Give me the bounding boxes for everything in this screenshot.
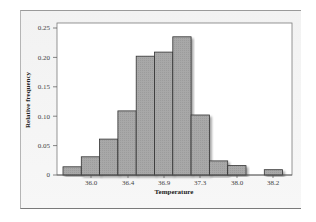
x-tick-label: 37.3 (194, 179, 207, 187)
x-axis: 36.036.436.937.338.038.2 (85, 175, 280, 187)
y-tick-label: 0 (47, 171, 51, 179)
y-tick-label: 0.10 (38, 113, 51, 121)
histogram-chart: 00.050.100.150.200.25 36.036.436.937.338… (0, 0, 316, 222)
y-axis-title: Relative frequency (24, 71, 32, 128)
histogram-bar (209, 161, 227, 175)
x-axis-title: Temperature (155, 188, 194, 196)
x-tick-label: 36.4 (122, 179, 135, 187)
x-tick-label: 36.9 (158, 179, 171, 187)
histogram-bar (155, 52, 173, 175)
histogram-bar (136, 56, 154, 175)
histogram-bar (228, 166, 246, 175)
y-tick-label: 0.05 (38, 142, 51, 150)
histogram-bar (191, 115, 209, 175)
histogram-bar (173, 37, 191, 175)
histogram-bar (63, 167, 81, 175)
y-tick-label: 0.20 (38, 54, 51, 62)
x-tick-label: 38.2 (267, 179, 280, 187)
y-tick-label: 0.15 (38, 83, 51, 91)
histogram-bar (118, 111, 136, 175)
x-tick-label: 36.0 (85, 179, 98, 187)
y-axis: 00.050.100.150.200.25 (38, 24, 57, 179)
histogram-bar (81, 157, 99, 175)
x-tick-label: 38.0 (231, 179, 244, 187)
histogram-bar (100, 139, 118, 175)
histogram-bar (264, 170, 282, 175)
y-tick-label: 0.25 (38, 24, 51, 32)
